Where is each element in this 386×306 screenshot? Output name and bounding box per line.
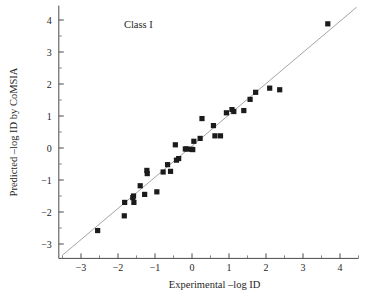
data-point-marker [154,189,159,194]
data-point-marker [218,133,223,138]
y-tick-label: 2 [47,79,52,90]
y-tick-label: 0 [47,143,52,154]
data-point-marker [224,110,229,115]
scatter-plot: −3−2−101234−3−2−101234Experimental –log … [0,0,386,306]
data-point-marker [212,133,217,138]
x-tick-label: 4 [338,262,343,273]
data-point-marker [267,86,272,91]
y-tick-label: −1 [41,175,52,186]
axis-labels: −3−2−101234−3−2−101234Experimental –log … [8,15,343,291]
data-point-marker [161,169,166,174]
data-point-marker [131,193,136,198]
y-tick-label: −2 [41,207,52,218]
x-tick-label: −2 [113,262,124,273]
data-point-marker [199,116,204,121]
x-axis-title: Experimental –log ID [169,279,261,290]
data-point-marker [168,169,173,174]
x-tick-label: 3 [301,262,306,273]
data-point-marker [173,142,178,147]
data-point-marker [176,156,181,161]
x-tick-label: 2 [264,262,269,273]
y-axis-title: Predicted –log ID by CoMSIA [8,67,19,196]
x-tick-label: −1 [150,262,161,273]
data-point-marker [253,90,258,95]
class-annotation-label: Class I [124,19,153,30]
y-tick-label: 4 [47,15,52,26]
y-tick-label: 3 [47,47,52,58]
x-tick-label: −3 [76,262,87,273]
data-point-marker [325,21,330,26]
data-point-marker [184,146,189,151]
y-tick-label: 1 [47,111,52,122]
data-point-marker [277,87,282,92]
data-point-marker [190,147,195,152]
data-points [95,21,330,233]
data-point-marker [231,109,236,114]
data-point-marker [142,192,147,197]
data-point-marker [122,213,127,218]
trend-line [63,7,357,255]
data-point-marker [191,139,196,144]
data-point-marker [95,228,100,233]
data-point-marker [122,200,127,205]
data-point-marker [145,171,150,176]
data-point-marker [247,97,252,102]
x-tick-label: 0 [190,262,195,273]
x-tick-label: 1 [227,262,232,273]
data-point-marker [241,108,246,113]
data-point-marker [211,123,216,128]
data-point-marker [165,162,170,167]
y-tick-label: −3 [41,239,52,250]
data-point-marker [198,136,203,141]
identity-trend-line [63,7,357,255]
figure-container: −3−2−101234−3−2−101234Experimental –log … [0,0,386,306]
data-point-marker [131,200,136,205]
data-point-marker [138,183,143,188]
